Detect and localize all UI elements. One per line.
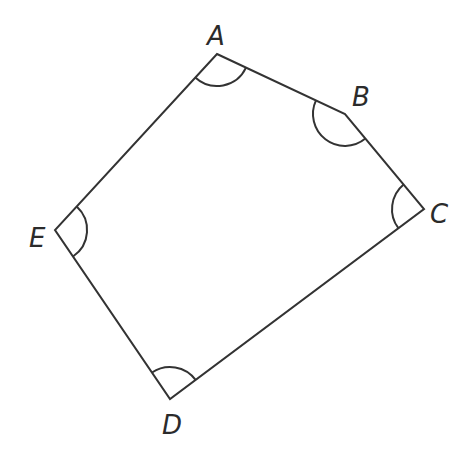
pentagon-diagram: A B C D E xyxy=(0,0,475,461)
vertex-label-b: B xyxy=(352,82,370,112)
vertex-label-c: C xyxy=(430,199,449,229)
vertex-label-e: E xyxy=(29,223,46,253)
vertex-label-a: A xyxy=(205,21,225,51)
angle-marker-e xyxy=(73,206,87,256)
angle-marker-d xyxy=(152,367,196,380)
angle-marker-c xyxy=(392,184,404,228)
vertex-label-d: D xyxy=(162,410,182,440)
